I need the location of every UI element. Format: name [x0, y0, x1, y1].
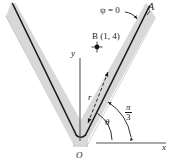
label-psi-condition: ψ = 0: [100, 6, 120, 15]
label-point-a: A: [148, 2, 154, 12]
fraction: π 3: [125, 103, 132, 123]
label-x-axis: x: [162, 143, 166, 152]
label-pi-over-three: π 3: [125, 103, 132, 123]
label-y-axis: y: [71, 49, 75, 58]
label-point-b: B (1, 4): [92, 32, 120, 41]
psi-leader-line: [125, 12, 137, 19]
point-b-marker: [92, 42, 103, 53]
label-radius: r: [88, 93, 92, 102]
label-theta: θ: [105, 118, 109, 127]
figure-drawing: [0, 0, 171, 166]
label-origin: O: [76, 151, 83, 160]
fraction-denominator: 3: [125, 113, 132, 122]
figure-container: A ψ = 0 B (1, 4) y x r θ O π 3: [0, 0, 171, 166]
